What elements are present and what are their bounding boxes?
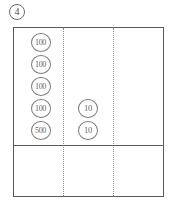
coin-100-3[interactable]: 100 [31, 77, 51, 96]
cell-row0-col0[interactable]: 100 100 100 100 500 [18, 28, 63, 143]
coin-10-1[interactable]: 10 [78, 99, 98, 118]
cell-row0-col1[interactable]: 10 10 [63, 28, 113, 143]
cell-row1-col2[interactable] [113, 145, 165, 198]
problem-number-label: 4 [15, 7, 20, 17]
coin-value: 500 [35, 126, 46, 134]
cell-row0-col2[interactable] [113, 28, 165, 145]
coin-500-1[interactable]: 500 [31, 121, 51, 140]
coin-100-1[interactable]: 100 [31, 33, 51, 52]
coin-value: 100 [35, 38, 46, 46]
coin-value: 100 [35, 60, 46, 68]
coin-value: 10 [84, 104, 92, 113]
coin-grid-box: 100 100 100 100 500 10 10 [13, 27, 164, 197]
coin-value: 10 [84, 126, 92, 135]
coin-100-4[interactable]: 100 [31, 99, 51, 118]
coin-100-2[interactable]: 100 [31, 55, 51, 74]
cell-row1-col1[interactable] [63, 145, 113, 198]
problem-number-badge: 4 [9, 4, 25, 20]
coin-10-2[interactable]: 10 [78, 121, 98, 140]
cell-row1-col0[interactable] [14, 145, 63, 198]
coin-value: 100 [35, 82, 46, 90]
coin-value: 100 [35, 104, 46, 112]
